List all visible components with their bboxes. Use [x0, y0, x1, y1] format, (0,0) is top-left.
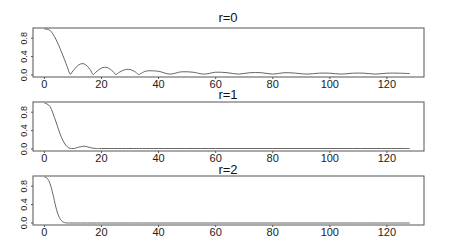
x-tick-label: 80 [267, 78, 279, 90]
y-tick-label: 0.4 [19, 124, 29, 137]
x-tick-label: 100 [321, 226, 339, 238]
panel-title: r=2 [218, 162, 237, 177]
y-tick-label: 0.0 [19, 217, 29, 230]
chart-canvas: r=0 0.00.40.8 020406080100120 r=1 0.00.4… [0, 0, 449, 247]
x-tick-label: 40 [152, 226, 164, 238]
y-tick-label: 0.8 [19, 180, 29, 193]
y-tick-label: 0.8 [19, 106, 29, 119]
y-tick-label: 0.4 [19, 50, 29, 63]
x-tick-label: 120 [378, 226, 396, 238]
y-tick-label: 0.0 [19, 69, 29, 82]
x-tick-label: 0 [41, 226, 47, 238]
x-tick-label: 20 [95, 152, 107, 164]
y-tick-label: 0.4 [19, 198, 29, 211]
panel-title: r=1 [218, 87, 237, 102]
plot-frame [33, 28, 424, 77]
y-axis: 0.00.40.8 [19, 180, 33, 229]
line-series [44, 29, 409, 75]
x-tick-label: 60 [210, 226, 222, 238]
plot-frame [33, 176, 424, 225]
x-tick-label: 100 [321, 78, 339, 90]
x-tick-label: 80 [267, 226, 279, 238]
y-tick-label: 0.0 [19, 143, 29, 156]
plot-frame [33, 102, 424, 151]
line-series [44, 177, 409, 223]
x-tick-label: 0 [41, 78, 47, 90]
panel-r1: r=1 0.00.40.8 020406080100120 [19, 87, 424, 164]
panel-r0: r=0 0.00.40.8 020406080100120 [19, 10, 424, 90]
x-tick-label: 120 [378, 78, 396, 90]
line-series [44, 103, 409, 149]
panel-title: r=0 [218, 10, 237, 25]
panel-r2: r=2 0.00.40.8 020406080100120 [19, 162, 424, 238]
x-tick-label: 20 [95, 78, 107, 90]
x-axis: 020406080100120 [41, 225, 396, 238]
x-tick-label: 100 [321, 152, 339, 164]
y-axis: 0.00.40.8 [19, 106, 33, 155]
x-tick-label: 120 [378, 152, 396, 164]
y-tick-label: 0.8 [19, 32, 29, 45]
x-tick-label: 40 [152, 78, 164, 90]
x-tick-label: 20 [95, 226, 107, 238]
x-tick-label: 40 [152, 152, 164, 164]
y-axis: 0.00.40.8 [19, 32, 33, 81]
x-tick-label: 0 [41, 152, 47, 164]
x-tick-label: 80 [267, 152, 279, 164]
